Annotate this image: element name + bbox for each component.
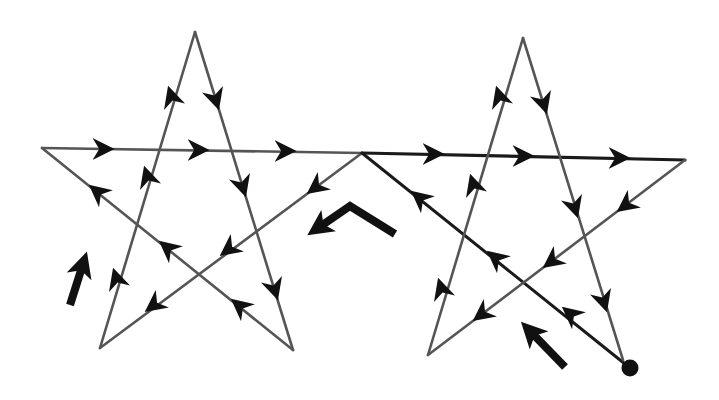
left-star-bottomleft-to-top — [100, 32, 195, 348]
hint-arrow-chevron-icon — [318, 206, 395, 234]
right-star-bottomleft-to-top — [428, 38, 523, 355]
right-star-top-bar — [362, 153, 685, 160]
hint-arrow-bottom-right-icon — [530, 331, 565, 367]
direction-arrowheads — [80, 78, 642, 328]
right-star-right-to-bottomleft — [428, 160, 685, 355]
hint-arrow-left-icon — [70, 264, 83, 305]
right-star — [362, 38, 685, 368]
arrowhead-icon — [150, 293, 170, 308]
arrowhead-icon — [492, 255, 513, 272]
left-star-right-to-bottomleft — [100, 153, 362, 348]
start-point-dot — [622, 360, 639, 377]
left-star — [42, 32, 362, 350]
right-star-top-to-bottomright — [523, 38, 623, 360]
arrowhead-icon — [225, 237, 245, 252]
left-star-left-to-bottomright — [42, 148, 293, 350]
double-star-path-diagram — [0, 0, 719, 400]
left-star-top-bar — [42, 148, 362, 153]
right-star-left-to-bottomright — [362, 153, 630, 368]
diagram-canvas: Two pentagram stars traced in one contin… — [0, 0, 719, 400]
